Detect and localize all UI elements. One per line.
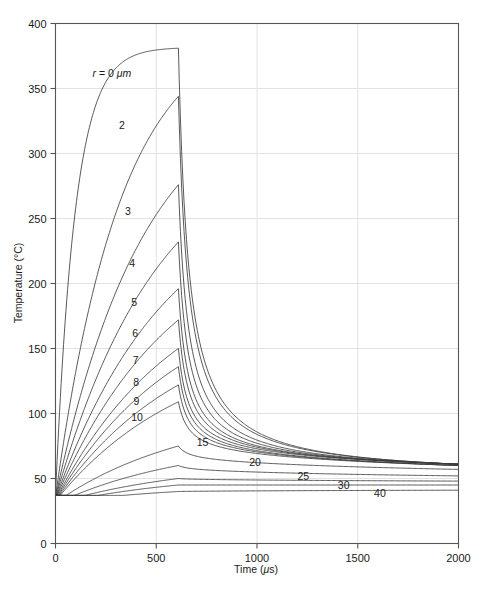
x-tick-label: 0: [52, 552, 58, 564]
x-tick-label: 500: [147, 552, 165, 564]
thermal-relaxation-chart: 0500100015002000050100150200250300350400…: [0, 0, 482, 590]
series-labels: r = 0 μm23456789101520253040: [93, 67, 386, 499]
y-tick-label: 50: [34, 473, 46, 485]
x-tick-label: 2000: [446, 552, 470, 564]
series-label-r-0: r = 0 μm: [93, 67, 132, 79]
y-axis-title: Temperature (°C): [12, 243, 24, 324]
series-label-r-2: 2: [119, 119, 125, 131]
series-label-r-10: 10: [131, 411, 143, 423]
y-tick-label: 350: [28, 83, 46, 95]
series-label-r-5: 5: [131, 296, 137, 308]
y-tick-label: 200: [28, 278, 46, 290]
series-label-r-30: 30: [338, 479, 350, 491]
series-label-r-15: 15: [197, 436, 209, 448]
y-tick-label: 300: [28, 148, 46, 160]
series-label-r-6: 6: [132, 327, 138, 339]
series-label-r-4: 4: [129, 257, 135, 269]
x-axis-title-suffix: s): [269, 563, 278, 575]
y-tick-label: 400: [28, 18, 46, 30]
series-label-r-7: 7: [133, 354, 139, 366]
series-label-r-9: 9: [134, 395, 140, 407]
x-axis-title-prefix: Time (: [234, 563, 264, 575]
plot-area: 0500100015002000050100150200250300350400…: [0, 0, 482, 590]
y-tick-label: 150: [28, 343, 46, 355]
y-tick-label: 0: [40, 538, 46, 550]
series-label-r-8: 8: [133, 376, 139, 388]
x-tick-label: 1500: [346, 552, 370, 564]
page-top-artifact: [0, 0, 482, 9]
x-axis-title: Time (μs): [234, 563, 278, 575]
x-tick-label: 1000: [245, 552, 269, 564]
series-label-r-40: 40: [374, 487, 386, 499]
series-label-r-20: 20: [249, 456, 261, 468]
axis-ticks: [51, 24, 459, 549]
series-label-r-25: 25: [298, 470, 310, 482]
tick-labels: 0500100015002000050100150200250300350400: [28, 18, 471, 564]
y-tick-label: 100: [28, 408, 46, 420]
series-label-r-3: 3: [125, 205, 131, 217]
y-tick-label: 250: [28, 213, 46, 225]
